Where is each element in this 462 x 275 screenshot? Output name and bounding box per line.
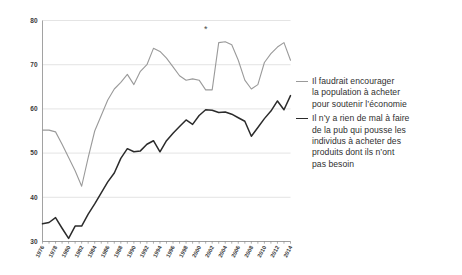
y-tick-label: 30 [30, 238, 38, 245]
legend-entry: Il faudrait encouragerla population à ac… [296, 76, 462, 110]
legend-swatch-line-icon [296, 81, 308, 82]
x-tick-label: 2012 [269, 245, 280, 259]
y-tick-labels: 304050607080 [30, 17, 38, 245]
y-tick-label: 70 [30, 61, 38, 68]
x-tick-label: 2002 [204, 245, 215, 259]
legend-label-line: Il n’y a rien de mal à faire [312, 113, 409, 124]
gridlines [43, 21, 291, 242]
chart-figure: 304050607080 197619781980198219841986198… [0, 0, 462, 275]
legend-label: Il n’y a rien de mal à fairede la pub qu… [312, 113, 409, 170]
asterisk-marker: * [204, 24, 208, 34]
x-tick-label: 1978 [47, 245, 58, 259]
chart-legend: Il faudrait encouragerla population à ac… [296, 76, 462, 173]
x-tick-label: 2000 [191, 245, 202, 259]
x-tick-label: 1986 [100, 245, 111, 259]
legend-label-line: la population à acheter [312, 87, 407, 98]
x-tick-label: 1992 [139, 245, 150, 259]
data-series-line [43, 42, 291, 187]
x-tick-label: 1990 [126, 245, 137, 259]
x-tick-label: 1982 [73, 245, 84, 259]
legend-label-line: pour soutenir l’économie [312, 99, 407, 110]
x-tick-label: 1988 [113, 245, 124, 259]
legend-swatch-line-icon [296, 118, 308, 119]
x-tick-label: 1996 [165, 245, 176, 259]
legend-label-line: produits dont ils n’ont [312, 147, 409, 158]
legend-entry: Il n’y a rien de mal à fairede la pub qu… [296, 113, 462, 170]
series-lines [43, 42, 291, 239]
y-tick-label: 40 [30, 194, 38, 201]
legend-label-line: individus à acheter des [312, 136, 409, 147]
legend-label-line: pas besoin [312, 159, 409, 170]
annotations-layer: * [204, 24, 208, 34]
x-tick-label: 1976 [34, 245, 45, 259]
data-series-line [43, 96, 291, 239]
legend-label: Il faudrait encouragerla population à ac… [312, 76, 407, 110]
legend-label-line: Il faudrait encourager [312, 76, 407, 87]
x-tick-label: 2006 [230, 245, 241, 259]
y-tick-label: 80 [30, 17, 38, 24]
x-tick-label: 2008 [243, 245, 254, 259]
x-tick-labels: 1976197819801982198419861988199019921994… [34, 244, 294, 259]
x-tick-label: 2010 [256, 245, 267, 259]
x-tick-label: 2014 [282, 244, 294, 259]
x-tick-label: 1980 [60, 245, 71, 259]
y-tick-label: 60 [30, 105, 38, 112]
y-tick-label: 50 [30, 149, 38, 156]
x-tick-label: 1984 [86, 244, 98, 259]
x-tick-label: 2004 [217, 244, 229, 259]
x-tick-label: 1998 [178, 245, 189, 259]
legend-label-line: de la pub qui pousse les [312, 125, 409, 136]
x-tick-label: 1994 [152, 244, 164, 259]
